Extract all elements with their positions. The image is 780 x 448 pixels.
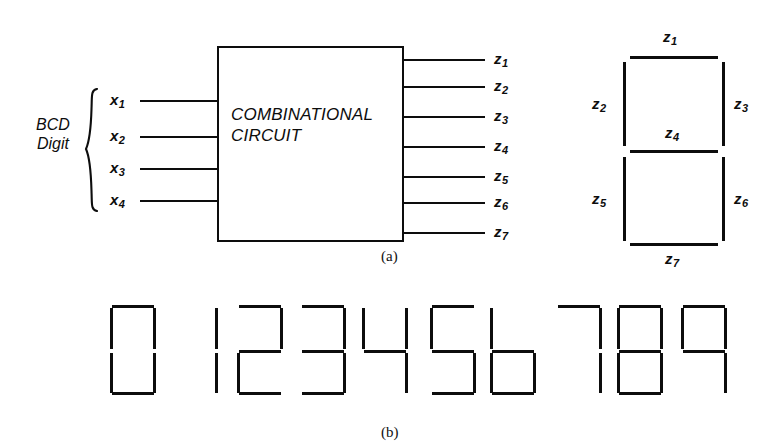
template-label-z4: z4: [665, 124, 679, 141]
seven-segment-digit-2: [237, 305, 283, 395]
input-label-x2: x2: [110, 127, 124, 144]
combinational-circuit-label: COMBINATIONAL CIRCUIT: [231, 104, 401, 146]
input-label-x3: x3: [110, 159, 124, 176]
seven-segment-digit-0: [110, 305, 156, 395]
digit-3-segment-top: [302, 305, 344, 308]
output-label-z3: z3: [494, 107, 508, 124]
output-wire-z7: [403, 232, 485, 234]
digit-6-segment-upper-left: [490, 308, 493, 349]
digit-1-segment-lower-left: [172, 353, 175, 393]
digit-1-segment-lower-right: [215, 353, 218, 393]
template-segment-lower-right: [722, 157, 725, 241]
digit-0-segment-upper-left: [110, 308, 113, 349]
output-wire-z5: [403, 176, 485, 178]
digit-9-segment-upper-left: [681, 308, 684, 349]
output-wire-z1: [403, 59, 485, 61]
digit-2-segment-upper-right: [280, 308, 283, 349]
input-wire-x3: [140, 168, 218, 170]
input-label-x1: x1: [110, 91, 124, 108]
digit-8-segment-lower-left: [617, 353, 620, 393]
digit-3-segment-upper-left: [300, 308, 303, 349]
template-label-z5: z5: [592, 190, 606, 207]
digit-6-segment-top: [492, 305, 534, 308]
digit-5-segment-bottom: [432, 392, 474, 395]
digit-1-segment-upper-right: [215, 308, 218, 349]
digit-3-segment-lower-left: [300, 353, 303, 393]
template-segment-top: [630, 56, 718, 59]
digit-3-segment-lower-right: [343, 353, 346, 393]
digit-8-segment-upper-left: [617, 308, 620, 349]
template-label-z7: z7: [665, 250, 679, 267]
digit-2-segment-top: [239, 305, 281, 308]
digit-2-segment-upper-left: [237, 308, 240, 349]
digit-6-segment-lower-left: [490, 353, 493, 393]
output-wire-z4: [403, 146, 485, 148]
digit-4-segment-middle: [364, 350, 406, 353]
digit-2-segment-lower-right: [280, 353, 283, 393]
digit-4-segment-bottom: [364, 392, 406, 395]
digit-2-segment-bottom: [239, 392, 281, 395]
template-label-z2: z2: [592, 95, 606, 112]
digit-0-segment-lower-left: [110, 353, 113, 393]
output-label-z7: z7: [494, 223, 508, 240]
digit-5-segment-middle: [432, 350, 474, 353]
digit-2-segment-middle: [239, 350, 281, 353]
digit-8-segment-upper-right: [660, 308, 663, 349]
output-wire-z2: [403, 86, 485, 88]
figure-root: BCD Digit x1 x2 x3 x4 COMBINATIONAL CIRC…: [0, 0, 780, 448]
digit-0-segment-middle: [112, 350, 154, 353]
input-wire-x1: [140, 100, 218, 102]
output-label-z1: z1: [494, 50, 508, 67]
digit-8-segment-bottom: [619, 392, 661, 395]
input-wire-x2: [140, 136, 218, 138]
seven-segment-digit-1: [172, 305, 218, 395]
output-label-z4: z4: [494, 137, 508, 154]
digit-9-segment-bottom: [683, 392, 725, 395]
output-label-z2: z2: [494, 77, 508, 94]
digit-3-segment-middle: [302, 350, 344, 353]
digit-9-segment-middle: [683, 350, 725, 353]
digit-0-segment-top: [112, 305, 154, 308]
output-wire-z3: [403, 116, 485, 118]
digit-4-segment-upper-left: [362, 308, 365, 349]
seven-segment-digit-6: [490, 305, 536, 395]
digit-6-segment-upper-right: [533, 308, 536, 349]
digit-6-segment-lower-right: [533, 353, 536, 393]
seven-segment-digit-4: [362, 305, 408, 395]
digit-1-segment-bottom: [174, 392, 216, 395]
digit-7-segment-lower-right: [599, 353, 602, 393]
digit-9-segment-upper-right: [724, 308, 727, 349]
digit-7-segment-middle: [558, 350, 600, 353]
output-label-z6: z6: [494, 193, 508, 210]
digit-1-segment-top: [174, 305, 216, 308]
digit-1-segment-upper-left: [172, 308, 175, 349]
input-brace: [83, 88, 99, 212]
seven-segment-digit-7: [556, 305, 602, 395]
digit-9-segment-top: [683, 305, 725, 308]
seven-segment-digit-9: [681, 305, 727, 395]
bcd-digit-group-label: BCD Digit: [18, 115, 88, 153]
digit-5-segment-upper-right: [473, 308, 476, 349]
output-label-z5: z5: [494, 167, 508, 184]
template-label-z3: z3: [734, 95, 748, 112]
digit-0-segment-upper-right: [153, 308, 156, 349]
digit-8-segment-lower-right: [660, 353, 663, 393]
digit-3-segment-bottom: [302, 392, 344, 395]
digit-0-segment-lower-right: [153, 353, 156, 393]
template-segment-lower-left: [623, 157, 626, 241]
digit-6-segment-bottom: [492, 392, 534, 395]
caption-part-a: (a): [381, 248, 398, 265]
digit-1-segment-middle: [174, 350, 216, 353]
template-label-z6: z6: [734, 190, 748, 207]
digit-5-segment-lower-left: [430, 353, 433, 393]
digit-8-segment-middle: [619, 350, 661, 353]
template-segment-upper-left: [623, 62, 626, 146]
digit-8-segment-top: [619, 305, 661, 308]
seven-segment-digit-3: [300, 305, 346, 395]
digit-4-segment-lower-right: [405, 353, 408, 393]
digit-5-segment-lower-right: [473, 353, 476, 393]
digit-7-segment-top: [558, 305, 600, 308]
template-label-z1: z1: [663, 28, 677, 45]
seven-segment-digit-8: [617, 305, 663, 395]
digit-3-segment-upper-right: [343, 308, 346, 349]
